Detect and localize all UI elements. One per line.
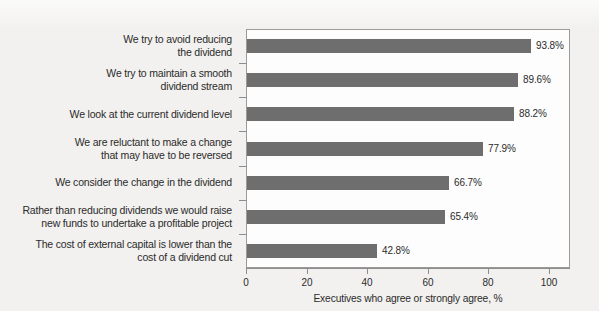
x-axis-tick [246, 268, 247, 274]
bars-layer [247, 30, 569, 267]
value-label: 42.8% [382, 243, 410, 257]
bar [247, 176, 449, 190]
x-axis-tick-label: 40 [348, 276, 386, 288]
value-label: 89.6% [523, 72, 551, 86]
x-axis-title: Executives who agree or strongly agree, … [254, 292, 562, 304]
x-axis-tick-label: 0 [227, 276, 265, 288]
value-label: 65.4% [450, 209, 478, 223]
x-axis-tick-label: 20 [288, 276, 326, 288]
x-axis-tick [549, 268, 550, 274]
value-label: 88.2% [519, 106, 547, 120]
bar [247, 244, 377, 258]
category-label: We are reluctant to make a change that m… [14, 136, 232, 162]
bar [247, 73, 518, 87]
x-axis-line [246, 268, 570, 269]
bar [247, 107, 514, 121]
category-label: We consider the change in the dividend [14, 176, 232, 189]
x-axis-tick [367, 268, 368, 274]
x-axis-tick [307, 268, 308, 274]
category-label: Rather than reducing dividends we would … [14, 204, 232, 230]
value-label: 66.7% [454, 175, 482, 189]
value-label: 93.8% [536, 38, 564, 52]
horizontal-bar-chart: We try to avoid reducing the dividend We… [0, 0, 599, 311]
category-label: We try to avoid reducing the dividend [14, 33, 232, 59]
x-axis-tick-label: 80 [469, 276, 507, 288]
x-axis-tick [488, 268, 489, 274]
bar [247, 39, 531, 53]
value-label: 77.9% [488, 141, 516, 155]
plot-area [246, 29, 570, 268]
category-label: The cost of external capital is lower th… [14, 238, 232, 264]
bar [247, 142, 483, 156]
category-axis-labels: We try to avoid reducing the dividend We… [0, 29, 240, 268]
bar [247, 210, 445, 224]
x-axis-tick [428, 268, 429, 274]
x-axis-tick-label: 100 [530, 276, 568, 288]
category-label: We look at the current dividend level [14, 108, 232, 121]
category-label: We try to maintain a smooth dividend str… [14, 67, 232, 93]
x-axis-tick-label: 60 [409, 276, 447, 288]
